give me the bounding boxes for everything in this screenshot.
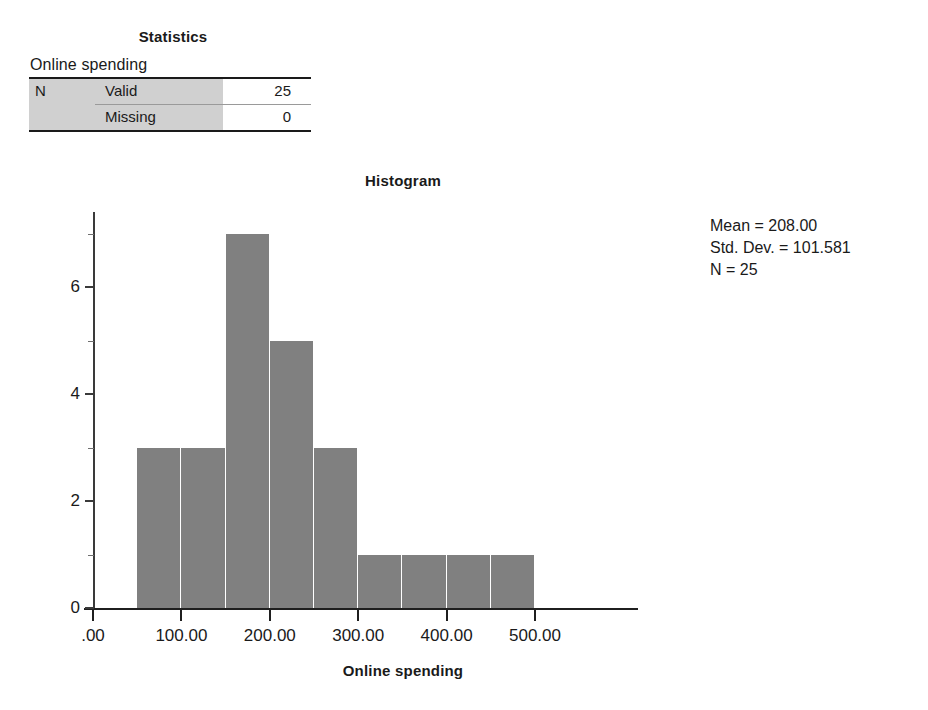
y-axis-tick [85, 393, 94, 395]
histogram-bar [181, 448, 225, 609]
x-axis-tick [92, 610, 94, 621]
statistics-row-group-empty [29, 105, 95, 132]
x-axis-tick [180, 610, 182, 621]
plot-area [93, 212, 623, 608]
histogram-bar [447, 555, 491, 609]
y-axis-tick-label: 6 [40, 278, 80, 295]
statistics-table-block: Statistics Online spending N Valid 25 Mi… [29, 28, 311, 132]
x-axis-line [84, 608, 638, 610]
x-axis-tick [446, 610, 448, 621]
y-axis-tick [85, 500, 94, 502]
x-axis-tick [357, 610, 359, 621]
histogram-bar [270, 341, 314, 609]
y-axis-minor-tick [88, 448, 94, 449]
x-axis-tick-label: .00 [38, 626, 148, 645]
statistics-variable-label: Online spending [30, 55, 311, 75]
statistics-table-title: Statistics [29, 28, 311, 45]
y-axis-tick [85, 607, 94, 609]
y-axis-line [93, 212, 95, 609]
x-axis-tick [269, 610, 271, 621]
y-axis-tick-label: 2 [40, 492, 80, 509]
x-axis-title: Online spending [243, 662, 563, 679]
annotation-mean: Mean = 208.00 [710, 215, 851, 237]
histogram-bar [358, 555, 402, 609]
y-axis-minor-tick [88, 555, 94, 556]
x-axis-tick-label: 200.00 [215, 626, 325, 645]
statistics-row-label-valid: Valid [95, 78, 223, 105]
y-axis-tick [85, 286, 94, 288]
annotation-std-dev: Std. Dev. = 101.581 [710, 237, 851, 259]
statistics-row-label-missing: Missing [95, 105, 223, 132]
annotation-n: N = 25 [710, 259, 851, 281]
x-axis-tick-label: 400.00 [392, 626, 502, 645]
x-axis-tick-label: 300.00 [303, 626, 413, 645]
statistics-table: N Valid 25 Missing 0 [29, 77, 311, 132]
y-axis-minor-tick [88, 234, 94, 235]
y-axis-tick-label: 0 [40, 599, 80, 616]
y-axis-tick-label: 4 [40, 385, 80, 402]
statistics-row-value-missing: 0 [223, 105, 311, 132]
statistics-row-group-n: N [29, 78, 95, 105]
table-row: Missing 0 [29, 105, 311, 132]
x-axis-tick [534, 610, 536, 621]
y-axis-minor-tick [88, 341, 94, 342]
histogram-bar [491, 555, 535, 609]
histogram-bar [314, 448, 358, 609]
histogram-bar [137, 448, 181, 609]
statistics-row-value-valid: 25 [223, 78, 311, 105]
histogram-bar [402, 555, 446, 609]
histogram-bar [226, 234, 270, 609]
chart-title: Histogram [243, 172, 563, 189]
table-row: N Valid 25 [29, 78, 311, 105]
x-axis-tick-label: 500.00 [480, 626, 590, 645]
chart-annotation-block: Mean = 208.00 Std. Dev. = 101.581 N = 25 [710, 215, 851, 281]
x-axis-tick-label: 100.00 [126, 626, 236, 645]
